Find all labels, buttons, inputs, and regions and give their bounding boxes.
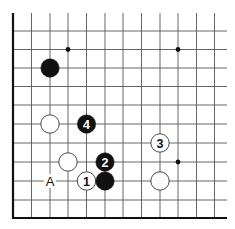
point-label-a: A bbox=[46, 174, 55, 189]
board-grid bbox=[12, 13, 227, 219]
stone-white-right bbox=[151, 172, 169, 190]
stone-black-unnumbered-bottom bbox=[96, 172, 114, 190]
star-point-icon bbox=[176, 47, 181, 52]
stone-black-4: 4 bbox=[77, 115, 95, 133]
move-number: 2 bbox=[102, 156, 109, 170]
move-number: 3 bbox=[157, 137, 164, 151]
star-point-icon bbox=[66, 47, 71, 52]
white-stone-icon bbox=[59, 153, 77, 171]
board-marks: A bbox=[44, 174, 56, 189]
black-stone-icon bbox=[41, 59, 59, 77]
black-stone-icon bbox=[96, 172, 114, 190]
stone-black-unnumbered-top bbox=[41, 59, 59, 77]
stone-white-3: 3 bbox=[151, 134, 169, 152]
stone-white-left bbox=[41, 115, 59, 133]
star-point-icon bbox=[176, 160, 181, 165]
stone-white-center bbox=[59, 153, 77, 171]
stone-white-1: 1 bbox=[77, 172, 95, 190]
go-board: A 4213 bbox=[0, 0, 235, 229]
move-number: 4 bbox=[83, 118, 90, 132]
white-stone-icon bbox=[41, 115, 59, 133]
stone-black-2: 2 bbox=[96, 153, 114, 171]
move-number: 1 bbox=[83, 175, 90, 189]
white-stone-icon bbox=[151, 172, 169, 190]
